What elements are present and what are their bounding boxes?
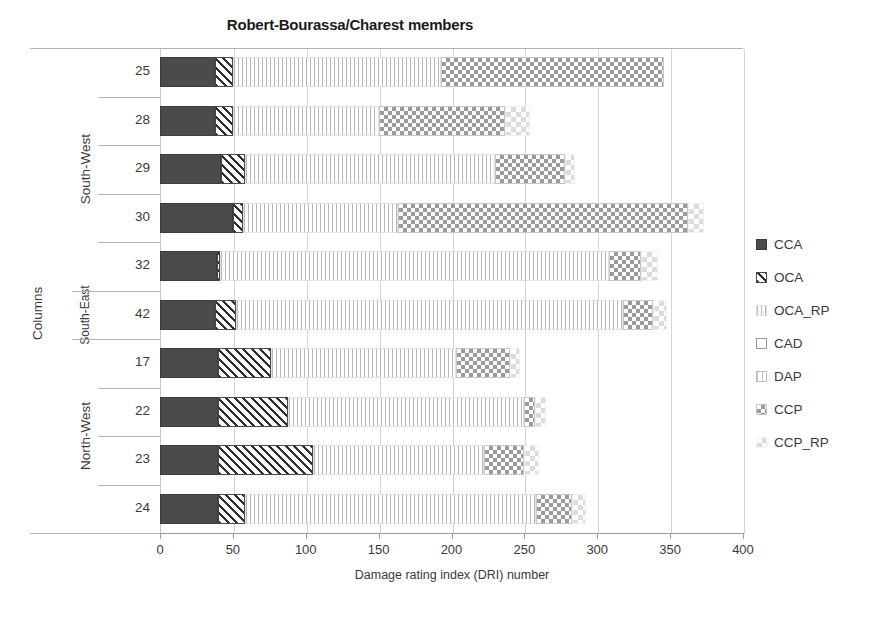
x-tick-label-300: 300 [567, 542, 627, 557]
bar-segment-oca [218, 494, 244, 524]
gridline-350 [671, 49, 672, 534]
bar-segment-ccp [524, 397, 534, 427]
bar-segment-ccp_rp [688, 203, 704, 233]
legend-label: DAP [774, 369, 802, 384]
legend-item-ccp[interactable]: CCP [756, 393, 830, 426]
y-group-separator [72, 339, 160, 340]
bar-segment-oca [215, 106, 232, 136]
legend-label: OCA [774, 270, 803, 285]
y-category-label-32: 32 [104, 257, 150, 272]
y-category-separator [98, 388, 160, 389]
y-group-label: North-West [78, 336, 93, 536]
bar-segment-cca [160, 57, 215, 87]
bar-segment-ccp_rp [572, 494, 585, 524]
x-tick-200 [452, 534, 453, 539]
legend-label: OCA_RP [774, 303, 830, 318]
bar-segment-oca_rp [245, 154, 496, 184]
bar-segment-ccp_rp [510, 348, 520, 378]
legend-label: CCA [774, 237, 803, 252]
axis-bottom-rule [30, 533, 160, 534]
bar-segment-oca_rp [271, 348, 456, 378]
gridline-400 [744, 49, 745, 534]
solid-dark-swatch [756, 239, 767, 250]
bar-segment-ccp [379, 106, 506, 136]
light-checker-swatch [756, 437, 767, 448]
bar-segment-ccp [623, 300, 652, 330]
legend-item-cad[interactable]: CAD [756, 327, 830, 360]
bar-segment-ccp [441, 57, 664, 87]
legend-label: CCP_RP [774, 435, 829, 450]
bar-segment-ccp [536, 494, 572, 524]
diagonal-hatch-swatch [756, 272, 767, 283]
y-group-south-east: South-East [78, 291, 98, 340]
bar-segment-oca [215, 300, 235, 330]
bar-segment-cca [160, 251, 217, 281]
bar-segment-oca_rp [288, 397, 524, 427]
y-category-label-42: 42 [104, 306, 150, 321]
x-tick-label-200: 200 [422, 542, 482, 557]
bar-segment-oca_rp [243, 203, 397, 233]
bar-segment-oca_rp [245, 494, 537, 524]
legend-item-oca[interactable]: OCA [756, 261, 830, 294]
y-category-separator [98, 145, 160, 146]
x-axis-title: Damage rating index (DRI) number [160, 568, 744, 582]
y-category-label-28: 28 [104, 112, 150, 127]
x-tick-label-0: 0 [130, 542, 190, 557]
empty-outline-swatch [756, 338, 767, 349]
bar-segment-oca_rp [233, 106, 379, 136]
bar-segment-ccp_rp [653, 300, 668, 330]
y-category-separator [98, 485, 160, 486]
y-category-label-17: 17 [104, 354, 150, 369]
bar-segment-ccp [495, 154, 565, 184]
y-category-label-29: 29 [104, 160, 150, 175]
bar-segment-oca_rp [313, 445, 484, 475]
bar-segment-cca [160, 494, 218, 524]
legend-item-ccp_rp[interactable]: CCP_RP [756, 426, 830, 459]
y-category-label-24: 24 [104, 500, 150, 515]
x-tick-250 [524, 534, 525, 539]
bar-segment-ccp_rp [505, 106, 530, 136]
legend-label: CCP [774, 402, 803, 417]
y-group-label: South-West [78, 69, 93, 269]
x-tick-label-100: 100 [276, 542, 336, 557]
bar-segment-ccp [456, 348, 510, 378]
x-tick-400 [743, 534, 744, 539]
y-category-separator [98, 436, 160, 437]
bar-segment-cca [160, 106, 215, 136]
y-category-label-22: 22 [104, 403, 150, 418]
bar-segment-oca_rp [233, 57, 441, 87]
x-tick-100 [306, 534, 307, 539]
y-category-separator [98, 97, 160, 98]
legend: CCAOCAOCA_RPCADDAPCCPCCP_RP [756, 228, 830, 459]
x-tick-350 [670, 534, 671, 539]
legend-item-cca[interactable]: CCA [756, 228, 830, 261]
y-category-label-30: 30 [104, 209, 150, 224]
y-group-south-west: South-West [78, 48, 98, 291]
legend-item-dap[interactable]: DAP [756, 360, 830, 393]
legend-item-oca_rp[interactable]: OCA_RP [756, 294, 830, 327]
vertical-line-swatch [756, 305, 767, 316]
y-group-separator [72, 291, 160, 292]
bar-segment-cca [160, 203, 233, 233]
bar-segment-oca [218, 348, 270, 378]
bar-segment-oca_rp [220, 251, 609, 281]
x-tick-label-350: 350 [640, 542, 700, 557]
y-category-separator [98, 194, 160, 195]
bar-segment-ccp_rp [565, 154, 575, 184]
bar-segment-oca [218, 397, 288, 427]
bar-segment-ccp_rp [524, 445, 539, 475]
bar-segment-oca_rp [236, 300, 624, 330]
y-group-north-west: North-West [78, 339, 98, 533]
x-tick-300 [597, 534, 598, 539]
bar-segment-oca [218, 445, 313, 475]
x-tick-label-400: 400 [713, 542, 773, 557]
bar-segment-ccp_rp [535, 397, 547, 427]
y-category-label-23: 23 [104, 451, 150, 466]
y-category-label-25: 25 [104, 63, 150, 78]
bar-segment-oca [233, 203, 243, 233]
x-tick-150 [379, 534, 380, 539]
chart-title: Robert-Bourassa/Charest members [0, 16, 700, 33]
legend-label: CAD [774, 336, 803, 351]
bar-segment-cca [160, 154, 221, 184]
bar-segment-ccp [484, 445, 525, 475]
